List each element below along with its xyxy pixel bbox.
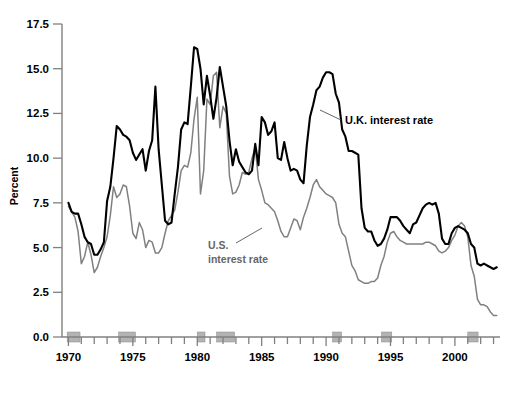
y-tick-label: 17.5 (27, 18, 50, 30)
series-line-us (68, 72, 496, 315)
us-label-leader-line (236, 228, 262, 243)
x-tick-label: 1970 (56, 351, 82, 363)
x-tick-label: 1990 (313, 351, 339, 363)
uk-label-leader-line (320, 110, 341, 120)
x-tick-labels: 1970197519801985199019952000 (56, 351, 468, 363)
x-tick-label: 1975 (120, 351, 146, 363)
data-series (68, 47, 496, 315)
y-tick-marks (53, 24, 62, 337)
x-tick-label: 1995 (378, 351, 404, 363)
y-axis-title: Percent (8, 166, 20, 205)
interest-rate-chart: 0.02.55.07.510.012.515.017.5 19701975198… (0, 0, 513, 395)
y-tick-label: 2.5 (33, 286, 50, 298)
y-tick-label: 5.0 (33, 242, 49, 254)
y-tick-labels: 0.02.55.07.510.012.515.017.5 (27, 18, 50, 343)
chart-canvas: 0.02.55.07.510.012.515.017.5 19701975198… (0, 0, 513, 395)
x-tick-label: 1985 (249, 351, 275, 363)
x-tick-label: 2000 (442, 351, 468, 363)
y-axis: 0.02.55.07.510.012.515.017.5 (27, 18, 62, 343)
y-tick-label: 12.5 (27, 107, 50, 119)
y-tick-label: 10.0 (27, 152, 49, 164)
x-tick-marks (68, 337, 493, 346)
y-tick-label: 7.5 (33, 197, 50, 209)
us-series-label-line2: interest rate (208, 253, 268, 265)
y-tick-label: 15.0 (27, 63, 49, 75)
y-tick-label: 0.0 (33, 331, 49, 343)
x-tick-label: 1980 (184, 351, 210, 363)
series-line-uk (68, 47, 496, 269)
uk-series-label: U.K. interest rate (345, 114, 433, 126)
us-series-label-line1: U.S. (208, 239, 229, 251)
